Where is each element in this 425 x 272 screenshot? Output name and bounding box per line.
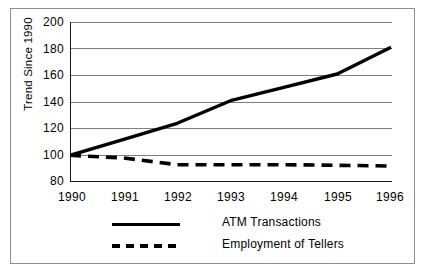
- legend-item-employment-of-tellers: Employment of Tellers: [70, 236, 392, 256]
- x-tick-label: 1991: [95, 190, 155, 204]
- y-axis-tick-labels: 200 180 160 140 120 100 80: [22, 0, 64, 272]
- x-tick-label: 1995: [308, 190, 368, 204]
- legend-label: Employment of Tellers: [222, 237, 344, 251]
- chart-svg: [70, 22, 392, 182]
- gridlines: [70, 23, 392, 156]
- legend-label: ATM Transactions: [222, 215, 321, 229]
- x-tick-label: 1990: [42, 190, 102, 204]
- x-tick-label: 1994: [254, 190, 314, 204]
- y-tick-label: 80: [30, 175, 64, 187]
- legend-swatch-solid-line: [112, 223, 180, 226]
- series-line-atm-transactions: [70, 47, 391, 155]
- y-tick-label: 140: [30, 96, 64, 108]
- plot-area: [70, 22, 392, 182]
- x-tick-label: 1996: [360, 190, 420, 204]
- legend-item-atm-transactions: ATM Transactions: [70, 214, 392, 234]
- y-tick-label: 100: [30, 149, 64, 161]
- chart-figure: Trend Since 1990 200 180 160 140 120 100…: [0, 0, 425, 272]
- legend-swatch-dashed-line: [112, 244, 180, 248]
- x-axis-tick-labels: 1990 1991 1992 1993 1994 1995 1996: [70, 190, 392, 208]
- y-tick-label: 160: [30, 69, 64, 81]
- x-tick-label: 1993: [201, 190, 261, 204]
- x-tick-label: 1992: [148, 190, 208, 204]
- y-tick-label: 200: [30, 16, 64, 28]
- y-tick-label: 180: [30, 43, 64, 55]
- series-line-employment-of-tellers: [70, 155, 391, 166]
- chart-legend: ATM Transactions Employment of Tellers: [70, 214, 392, 258]
- y-tick-label: 120: [30, 122, 64, 134]
